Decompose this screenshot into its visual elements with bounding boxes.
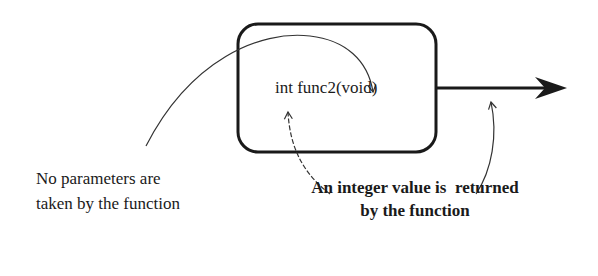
parameters-annotation: No parameters are taken by the function xyxy=(36,166,180,216)
parameters-annotation-line2: taken by the function xyxy=(36,191,180,216)
return-annotation-line2: by the function xyxy=(270,199,560,222)
return-arrow xyxy=(436,77,567,99)
function-signature: int func2(void) xyxy=(275,78,377,98)
diagram-canvas xyxy=(0,0,598,276)
parameters-annotation-line1: No parameters are xyxy=(36,166,180,191)
return-annotation: An integer value is returned by the func… xyxy=(270,176,560,222)
return-annotation-line1: An integer value is returned xyxy=(270,176,560,199)
